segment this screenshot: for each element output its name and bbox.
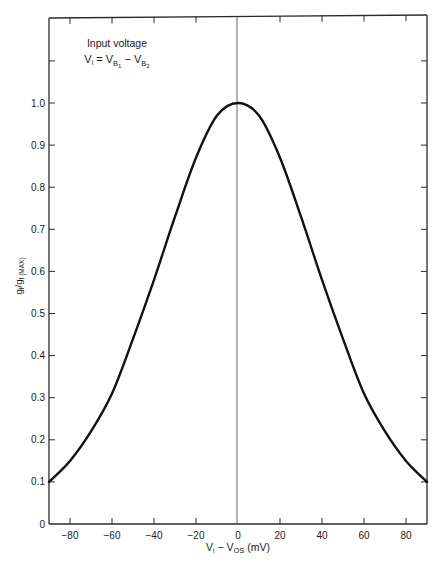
y-tick-label: 0.5 <box>31 308 45 319</box>
y-tick-label: 0.1 <box>31 476 45 487</box>
y-tick-label: 0.6 <box>31 266 45 277</box>
x-tick-label: −80 <box>62 530 79 541</box>
y-tick-label: 0.3 <box>31 392 45 403</box>
x-tick-label: 0 <box>235 530 241 541</box>
y-tick-labels: 00.10.20.30.40.50.60.70.80.91.0 <box>31 98 45 530</box>
x-tick-label: 60 <box>358 530 370 541</box>
axis-ticks <box>49 15 427 524</box>
series-curve <box>49 103 427 482</box>
chart: 00.10.20.30.40.50.60.70.80.91.0 −80−60−4… <box>0 0 443 568</box>
plot-frame <box>49 15 427 524</box>
annotation-line2: Vi = VB1 − VB2 <box>84 53 150 69</box>
y-tick-label: 1.0 <box>31 98 45 109</box>
x-tick-label: −60 <box>104 530 121 541</box>
annotation: Input voltage Vi = VB1 − VB2 <box>84 37 150 69</box>
x-tick-label: 40 <box>316 530 328 541</box>
x-tick-label: −40 <box>146 530 163 541</box>
x-axis-label: Vi − VOS (mV) <box>206 541 270 555</box>
y-tick-label: 0.2 <box>31 434 45 445</box>
x-tick-labels: −80−60−40−20020406080 <box>62 530 412 541</box>
y-tick-label: 0.8 <box>31 182 45 193</box>
y-tick-label: 0.7 <box>31 224 45 235</box>
y-tick-label: 0.4 <box>31 350 45 361</box>
y-axis-label: gf/gf (MAX) <box>13 257 26 294</box>
y-tick-label: 0.9 <box>31 140 45 151</box>
x-axis-top <box>49 15 427 18</box>
x-tick-label: 20 <box>274 530 286 541</box>
x-tick-label: 80 <box>400 530 412 541</box>
y-tick-label: 0 <box>39 519 45 530</box>
annotation-line1: Input voltage <box>87 37 147 49</box>
x-tick-label: −20 <box>188 530 205 541</box>
